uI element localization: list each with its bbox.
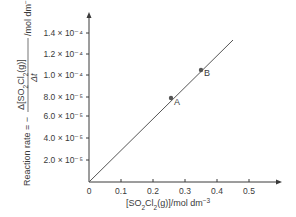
y-tick-label: 1.2 × 10⁻⁴ [43, 49, 83, 59]
y-tick-label: 4.0 × 10⁻⁵ [44, 133, 83, 143]
point-a-label: A [174, 97, 180, 107]
y-tick-label: 2.0 × 10⁻⁵ [44, 155, 83, 165]
x-tick-label: 0.2 [147, 186, 159, 196]
y-axis-label: Reaction rate = − Δ[SO2Cl2(g)] Δt /mol d… [16, 0, 39, 186]
chart: 0 0.1 0.2 0.3 0.4 0.5 2.0 × 10⁻⁵ 4.0 × 1… [0, 0, 296, 217]
point-b [199, 68, 203, 72]
x-tick-label: 0.5 [243, 186, 255, 196]
data-points: A B [169, 68, 210, 107]
data-line [89, 40, 233, 182]
svg-text:Reaction rate = −: Reaction rate = − [22, 117, 32, 186]
y-tick-label: 1.4 × 10⁻⁴ [43, 28, 83, 38]
x-tick-label: 0 [87, 186, 92, 196]
x-axis-label: [SO2Cl2(g)]/mol dm−3 [126, 197, 211, 211]
y-tick-label: 1.0 × 10⁻⁴ [43, 70, 83, 80]
y-tick-label: 8.0 × 10⁻⁵ [44, 92, 83, 102]
svg-text:/mol dm−3 s−1: /mol dm−3 s−1 [22, 0, 34, 36]
x-tick-label: 0.4 [211, 186, 223, 196]
svg-text:Δ[SO2Cl2(g)]: Δ[SO2Cl2(g)] [16, 59, 29, 110]
x-axis-arrow-icon [276, 180, 282, 185]
point-b-label: B [204, 68, 210, 78]
x-tick-label: 0.3 [179, 186, 191, 196]
y-ticks: 2.0 × 10⁻⁵ 4.0 × 10⁻⁵ 6.0 × 10⁻⁵ 8.0 × 1… [43, 28, 89, 165]
y-axis-arrow-icon [87, 12, 92, 18]
point-a [169, 96, 173, 100]
svg-text:Δt: Δt [29, 73, 39, 83]
y-tick-label: 6.0 × 10⁻⁵ [44, 111, 83, 121]
x-tick-label: 0.1 [115, 186, 127, 196]
axes [87, 12, 283, 185]
